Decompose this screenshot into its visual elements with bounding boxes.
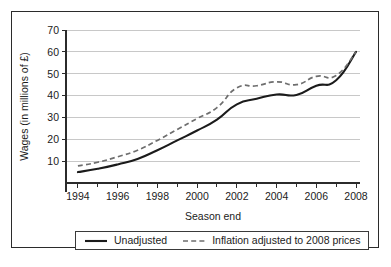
x-tick-label: 1996 xyxy=(106,190,130,202)
x-tick-label: 2002 xyxy=(225,190,249,202)
wages-line-chart: 1020304050607019941996199820002002200420… xyxy=(12,12,380,249)
chart-figure: 1020304050607019941996199820002002200420… xyxy=(11,11,379,248)
chart-legend: Unadjusted Inflation adjusted to 2008 pr… xyxy=(75,231,369,250)
y-tick-label: 40 xyxy=(47,89,59,101)
series-line-unadjusted xyxy=(78,52,356,172)
y-tick-label: 60 xyxy=(47,46,59,58)
y-tick-label: 20 xyxy=(47,133,59,145)
x-tick-label: 1998 xyxy=(146,190,170,202)
y-tick-label: 10 xyxy=(47,155,59,167)
legend-label-inflation-adjusted: Inflation adjusted to 2008 prices xyxy=(212,235,360,246)
legend-swatch-solid xyxy=(84,236,108,246)
x-tick-label: 2006 xyxy=(305,190,329,202)
x-tick-label: 2000 xyxy=(185,190,209,202)
y-tick-label: 70 xyxy=(47,24,59,36)
legend-entry-inflation-adjusted: Inflation adjusted to 2008 prices xyxy=(182,235,360,246)
legend-entry-unadjusted: Unadjusted xyxy=(84,235,167,246)
x-tick-label: 1994 xyxy=(66,190,90,202)
legend-label-unadjusted: Unadjusted xyxy=(114,235,167,246)
plot-area: 1020304050607019941996199820002002200420… xyxy=(12,12,380,249)
x-axis-title: Season end xyxy=(185,210,241,222)
y-axis-title: Wages (in millions of £) xyxy=(18,52,30,161)
x-tick-label: 2004 xyxy=(265,190,289,202)
series-line-inflation-adjusted xyxy=(78,52,356,166)
legend-swatch-dashed xyxy=(182,236,206,246)
y-tick-label: 50 xyxy=(47,68,59,80)
x-tick-label: 2008 xyxy=(344,190,368,202)
y-tick-label: 30 xyxy=(47,111,59,123)
